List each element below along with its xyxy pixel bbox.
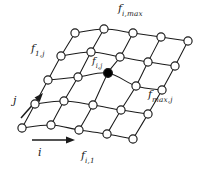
grid-node xyxy=(60,97,68,105)
mesh-diagram-figure: fi,max f1,j fi,j fmax,j fi,1 j i xyxy=(0,0,207,170)
grid-node xyxy=(100,25,108,33)
label-f-max-j: fmax,j xyxy=(148,89,173,102)
label-f-1-j-subscript: 1,j xyxy=(35,49,45,58)
label-f-max-j-subscript: max,j xyxy=(152,95,173,104)
grid-node xyxy=(144,110,152,118)
label-f-i-max-subscript: i,max xyxy=(122,9,143,18)
axis-label-j: j xyxy=(13,95,16,106)
grid-node xyxy=(103,130,111,138)
grid-line-col-2 xyxy=(79,33,133,130)
mesh-grid-svg xyxy=(0,0,207,170)
grid-node-highlighted xyxy=(104,69,113,78)
grid-node xyxy=(117,106,125,114)
grid-node xyxy=(129,135,137,143)
grid-node xyxy=(116,53,124,61)
grid-node xyxy=(71,29,79,37)
grid-node xyxy=(89,101,97,109)
grid-node xyxy=(184,37,192,45)
grid-node xyxy=(129,29,137,37)
grid-node xyxy=(157,33,165,41)
label-f-i-1-subscript: i,1 xyxy=(85,156,95,165)
grid-node xyxy=(132,82,140,90)
grid-node xyxy=(44,76,52,84)
grid-node xyxy=(31,100,39,108)
grid-node xyxy=(75,126,83,134)
label-f-i-j: fi,j xyxy=(92,56,102,69)
label-f-1-j: f1,j xyxy=(31,43,45,56)
grid-node xyxy=(144,58,152,66)
grid-node xyxy=(74,73,82,81)
axis-arrow-head-i xyxy=(66,137,75,144)
label-f-i-max: fi,max xyxy=(118,3,143,16)
grid-node xyxy=(47,121,55,129)
grid-node xyxy=(18,124,26,132)
grid-node xyxy=(171,62,179,70)
label-f-i-j-subscript: i,j xyxy=(96,62,103,70)
label-f-i-1: fi,1 xyxy=(81,150,95,163)
grid-node xyxy=(57,52,65,60)
axis-label-i: i xyxy=(38,147,42,158)
